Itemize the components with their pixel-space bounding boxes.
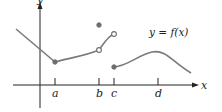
x-axis-label: x [201, 79, 208, 92]
tick-label-b: b [96, 87, 103, 100]
y-axis-label: y [36, 0, 44, 6]
tick-c: c [111, 78, 117, 100]
point-start-at-c [112, 65, 116, 69]
tick-a: a [52, 78, 59, 100]
tick-label-c: c [111, 87, 117, 100]
tick-label-d: d [155, 87, 162, 100]
curve-c-onward [114, 52, 191, 73]
point-hole-before-c [112, 32, 117, 37]
point-hole-at-b [97, 48, 102, 53]
tick-b: b [96, 78, 103, 100]
curve-a-to-b [55, 50, 99, 62]
tick-d: d [155, 78, 162, 100]
y-axis: y [36, 0, 44, 108]
curve-b-to-c [99, 34, 114, 50]
function-graph: y x a b c d y = f(x) [0, 0, 222, 112]
tick-label-a: a [52, 87, 59, 100]
function-label: y = f(x) [148, 26, 188, 38]
x-axis-arrow-icon [192, 83, 199, 88]
point-isolated-at-b [97, 23, 101, 27]
point-min-at-a [53, 60, 57, 64]
curve-left-line [16, 29, 55, 62]
